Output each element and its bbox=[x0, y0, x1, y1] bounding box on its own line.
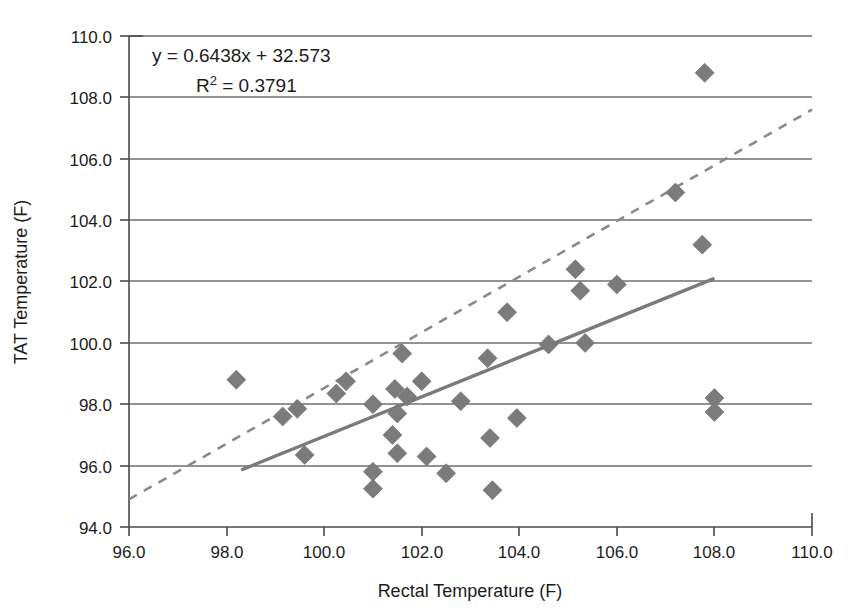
data-point bbox=[498, 303, 517, 322]
data-point bbox=[507, 409, 526, 428]
data-point bbox=[388, 444, 407, 463]
x-tick-label-106: 106.0 bbox=[596, 543, 639, 562]
y-tick-label-106: 106.0 bbox=[69, 151, 112, 170]
data-point bbox=[412, 372, 431, 391]
reference-line-dashed bbox=[129, 110, 812, 500]
y-axis-title: TAT Temperature (F) bbox=[11, 200, 31, 365]
data-point bbox=[666, 183, 685, 202]
data-point bbox=[478, 349, 497, 368]
y-tick-marks bbox=[120, 36, 129, 527]
x-tick-label-108: 108.0 bbox=[693, 543, 736, 562]
r-squared-exponent: 2 bbox=[210, 73, 217, 88]
x-tick-label-104: 104.0 bbox=[498, 543, 541, 562]
data-point bbox=[227, 370, 246, 389]
x-tick-label-98: 98.0 bbox=[210, 543, 243, 562]
chart-canvas: 110.0 108.0 106.0 104.0 102.0 100.0 98.0… bbox=[0, 0, 858, 614]
data-point bbox=[481, 429, 500, 448]
y-tick-label-100: 100.0 bbox=[69, 335, 112, 354]
data-point bbox=[363, 395, 382, 414]
x-tick-label-100: 100.0 bbox=[303, 543, 346, 562]
data-point bbox=[576, 333, 595, 352]
data-point bbox=[363, 462, 382, 481]
y-tick-label-110: 110.0 bbox=[71, 28, 112, 47]
data-point bbox=[539, 335, 558, 354]
scatter-plot-figure: 110.0 108.0 106.0 104.0 102.0 100.0 98.0… bbox=[0, 0, 858, 614]
regression-trendline bbox=[241, 278, 714, 470]
r-squared-value: = 0.3791 bbox=[217, 75, 297, 96]
regression-annotation: y = 0.6438x + 32.573 R2 = 0.3791 bbox=[152, 45, 331, 96]
y-tick-label-96: 96.0 bbox=[79, 458, 112, 477]
data-point bbox=[383, 425, 402, 444]
data-point bbox=[417, 447, 436, 466]
data-point bbox=[388, 404, 407, 423]
x-tick-labels: 96.0 98.0 100.0 102.0 104.0 106.0 108.0 … bbox=[112, 543, 832, 562]
x-tick-label-110: 110.0 bbox=[791, 543, 832, 562]
data-point bbox=[566, 260, 585, 279]
data-point bbox=[483, 481, 502, 500]
y-tick-label-108: 108.0 bbox=[69, 89, 112, 108]
y-tick-label-104: 104.0 bbox=[69, 212, 112, 231]
data-point bbox=[607, 275, 626, 294]
r-squared-prefix: R bbox=[196, 75, 210, 96]
regression-equation: y = 0.6438x + 32.573 bbox=[152, 45, 331, 66]
r-squared-label: R2 = 0.3791 bbox=[196, 73, 297, 96]
data-point bbox=[571, 281, 590, 300]
x-tick-marks bbox=[129, 527, 812, 536]
data-point bbox=[451, 392, 470, 411]
x-tick-label-96: 96.0 bbox=[112, 543, 145, 562]
y-tick-label-102: 102.0 bbox=[69, 273, 112, 292]
data-point bbox=[363, 479, 382, 498]
data-point bbox=[705, 402, 724, 421]
y-tick-label-94: 94.0 bbox=[79, 519, 112, 538]
x-axis-title: Rectal Temperature (F) bbox=[378, 581, 563, 601]
data-point bbox=[695, 63, 714, 82]
data-point bbox=[693, 235, 712, 254]
y-tick-label-98: 98.0 bbox=[79, 396, 112, 415]
y-tick-labels: 110.0 108.0 106.0 104.0 102.0 100.0 98.0… bbox=[69, 28, 112, 538]
x-tick-label-102: 102.0 bbox=[401, 543, 444, 562]
